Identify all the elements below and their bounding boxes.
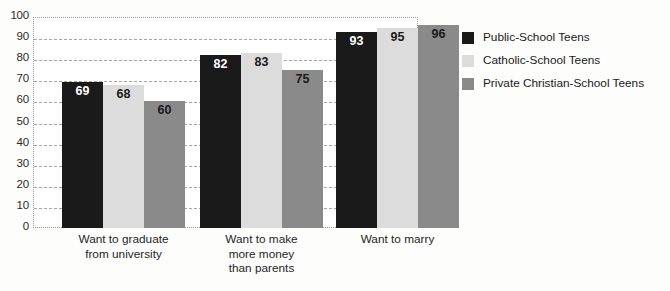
- y-axis: 100 90 80 70 60 50 40 30 20 10 0: [0, 10, 29, 235]
- category-label-line: than parents: [185, 261, 338, 276]
- y-tick-80: 80: [0, 52, 29, 64]
- bar-value-label: 60: [144, 104, 185, 117]
- bar-more-money-catholic[interactable]: 83: [241, 53, 282, 228]
- bar-value-label: 68: [103, 88, 144, 101]
- legend: Public-School Teens Catholic-School Teen…: [462, 26, 667, 95]
- bar-value-label: 83: [241, 56, 282, 69]
- bar-marry-private-christian[interactable]: 96: [418, 25, 459, 228]
- category-label-line: Want to make: [185, 232, 338, 247]
- legend-item-public-school-teens[interactable]: Public-School Teens: [462, 26, 667, 49]
- y-tick-10: 10: [0, 200, 29, 212]
- y-tick-70: 70: [0, 73, 29, 85]
- legend-swatch-icon: [462, 32, 474, 44]
- legend-swatch-icon: [462, 55, 474, 67]
- y-tick-20: 20: [0, 179, 29, 191]
- bar-value-label: 96: [418, 28, 459, 41]
- y-tick-100: 100: [0, 10, 29, 22]
- bar-value-label: 93: [336, 35, 377, 48]
- bar-more-money-private-christian[interactable]: 75: [282, 70, 323, 228]
- bar-more-money-public[interactable]: 82: [200, 55, 241, 228]
- legend-item-label: Public-School Teens: [483, 31, 590, 44]
- legend-item-private-christian-school-teens[interactable]: Private Christian-School Teens: [462, 72, 667, 95]
- y-tick-90: 90: [0, 31, 29, 43]
- bar-value-label: 75: [282, 73, 323, 86]
- y-tick-50: 50: [0, 116, 29, 128]
- bar-graduate-catholic[interactable]: 68: [103, 85, 144, 229]
- bar-graduate-private-christian[interactable]: 60: [144, 101, 185, 228]
- y-tick-30: 30: [0, 158, 29, 170]
- x-axis-category-labels: Want to graduate from university Want to…: [33, 232, 418, 290]
- legend-item-catholic-school-teens[interactable]: Catholic-School Teens: [462, 49, 667, 72]
- bar-value-label: 69: [62, 85, 103, 98]
- bars-layer: 69 68 60 82 83 75 93 95 96: [33, 17, 418, 228]
- category-label-more-money: Want to make more money than parents: [185, 232, 338, 276]
- bar-value-label: 95: [377, 31, 418, 44]
- category-label-line: Want to marry: [320, 232, 475, 247]
- bar-marry-catholic[interactable]: 95: [377, 28, 418, 229]
- legend-item-label: Catholic-School Teens: [483, 54, 600, 67]
- legend-swatch-icon: [462, 78, 474, 90]
- category-label-marry: Want to marry: [320, 232, 475, 247]
- bar-chart-figure: 100 90 80 70 60 50 40 30 20 10 0 69 68 6…: [0, 0, 670, 291]
- bar-graduate-public[interactable]: 69: [62, 82, 103, 228]
- y-tick-60: 60: [0, 94, 29, 106]
- bar-value-label: 82: [200, 58, 241, 71]
- y-tick-0: 0: [0, 221, 29, 233]
- y-tick-40: 40: [0, 137, 29, 149]
- legend-item-label: Private Christian-School Teens: [483, 77, 644, 90]
- category-label-line: more money: [185, 247, 338, 262]
- bar-marry-public[interactable]: 93: [336, 32, 377, 228]
